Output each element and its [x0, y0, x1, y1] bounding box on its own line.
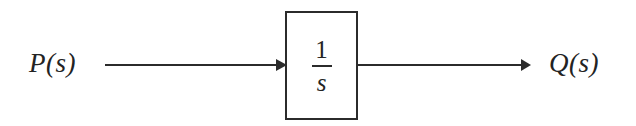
- fraction-numerator: 1: [315, 37, 328, 65]
- transfer-function-fraction: 1 s: [287, 13, 356, 118]
- output-signal-label: Q(s): [549, 50, 599, 77]
- integrator-block: 1 s: [285, 11, 358, 120]
- block-diagram-canvas: P(s) 1 s Q(s): [0, 0, 636, 126]
- fraction-denominator: s: [317, 67, 327, 95]
- output-arrow-head-icon: [521, 59, 531, 71]
